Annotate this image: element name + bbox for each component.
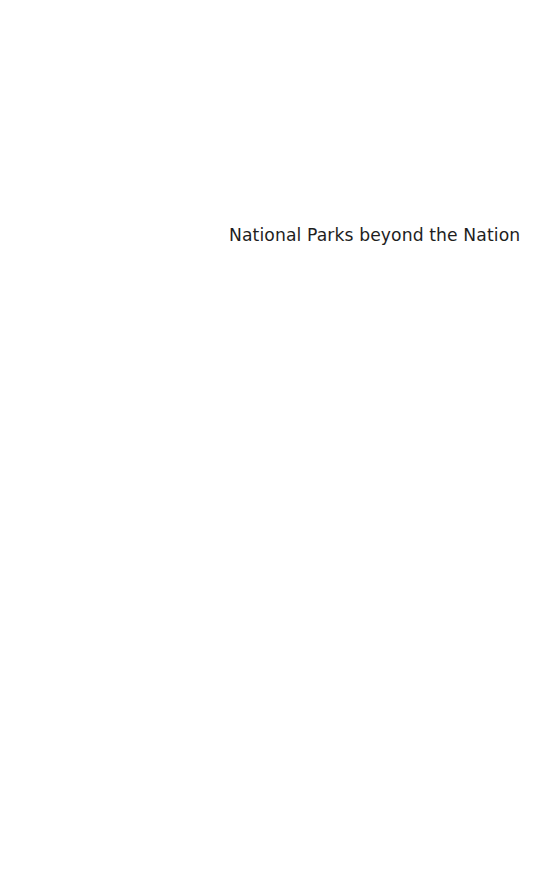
book-page: National Parks beyond the Nation xyxy=(0,0,546,882)
half-title: National Parks beyond the Nation xyxy=(229,222,520,248)
